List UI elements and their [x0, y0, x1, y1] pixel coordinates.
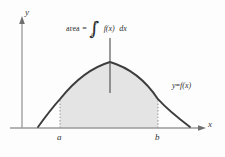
- integral-lower-limit: a: [91, 32, 94, 38]
- shaded-area-region: [60, 62, 158, 128]
- differential-dx: dx: [119, 25, 127, 33]
- y-axis-arrowhead: [19, 16, 25, 24]
- x-axis-label: x: [208, 120, 212, 129]
- x-axis-arrowhead: [198, 125, 206, 131]
- curve-label-fx: f(x): [180, 81, 191, 90]
- integral-word-area: area: [66, 25, 80, 33]
- integral-equals-sign: =: [81, 25, 88, 33]
- integral-sign-group: ∫ b a: [89, 21, 99, 37]
- y-axis-label: y: [25, 8, 29, 17]
- curve-label: y=f(x): [172, 82, 191, 90]
- integral-upper-limit: b: [94, 21, 97, 27]
- integral-expression-label: area = ∫ b a f(x) dx: [66, 21, 127, 37]
- integrand-fx: f(x): [104, 25, 115, 33]
- tick-label-a: a: [57, 133, 62, 142]
- tick-label-b: b: [155, 133, 160, 142]
